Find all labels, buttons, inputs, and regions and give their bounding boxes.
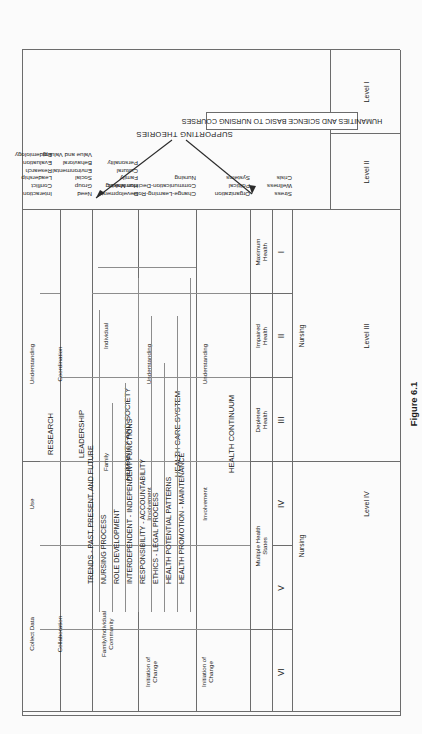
level-label-2: Level II [364, 161, 372, 184]
frame-top-border [22, 50, 23, 716]
research-process-understanding: Understanding [29, 344, 36, 384]
theory-item: Epidemiology [15, 152, 52, 160]
thread-rule-2 [177, 316, 178, 612]
level-bottom-sep-1 [292, 461, 400, 462]
continuum-cell-impaired-health-text: Impaired Health [254, 324, 269, 348]
thread-rule-4 [151, 316, 152, 612]
research-process-collect-data: Collect Data [29, 617, 36, 651]
course-numeral-2: II [278, 334, 287, 339]
continuum-process-initiation: Initiation of Change [200, 657, 215, 687]
continuum-cell-depleted-health-text: Depleted Health [254, 408, 269, 433]
theory-group-interaction: InteractionConflictLeadershipResearchEva… [15, 152, 52, 199]
theory-item: Political [215, 183, 250, 191]
leadership-tick-4 [60, 629, 92, 630]
thread-label-4: RESPONSIBILITY - ACCOUNTABILITY [140, 459, 148, 584]
theory-item: Humanistic [102, 183, 138, 191]
research-tick-1 [40, 293, 60, 294]
continuum-cell-sep-1 [250, 293, 272, 294]
thread-rule-8 [99, 310, 100, 612]
research-process-use: Use [29, 498, 36, 509]
continuum-cell-multiple-health-states: Multiple Health States [254, 526, 269, 567]
continuum-process-understanding: Understanding [202, 344, 209, 384]
continuum-tick-3 [196, 461, 250, 462]
strand-title-health-continuum: HEALTH CONTINUUM [228, 395, 236, 473]
course-numeral-4: IV [278, 500, 287, 508]
hcs-tick-5 [138, 629, 196, 630]
theory-item: Stress [267, 190, 292, 198]
continuum-tick-5 [196, 629, 250, 630]
hcs-process-initiation-text: Initiation of Change [144, 657, 159, 687]
theory-group-organization: OrganizationPoliticalSystems [215, 175, 250, 198]
hcs-tick-1 [138, 293, 196, 294]
course-numeral-5: V [278, 585, 287, 590]
nursing-group-label-right: Nursing [298, 325, 305, 348]
theory-item: Conflict [15, 183, 52, 191]
course-numeral-3: III [278, 417, 287, 424]
course-col-sep-3 [272, 461, 292, 462]
theory-item: Cultural [102, 167, 138, 175]
continuum-cell-maximum-health-text: Maximum Health [254, 239, 269, 266]
theory-column-divider [22, 209, 330, 210]
thread-rule-7 [112, 403, 113, 612]
humanities-box-label: HUMANITIES AND SCIENCE BASIC TO NURSING … [182, 117, 382, 125]
thread-rule-3 [164, 363, 165, 612]
theory-group-stress: StressWellnessCrisis [267, 175, 292, 198]
theory-item: Wellness [267, 183, 292, 191]
continuum-cell-sep-3 [250, 461, 272, 462]
hcs-process-initiation: Initiation of Change [144, 657, 159, 687]
course-numeral-1: I [278, 251, 287, 253]
leadership-tick-1 [60, 377, 92, 378]
humanity-tick-1 [92, 293, 138, 294]
humanity-process-family: Family [103, 453, 110, 471]
humanity-process-family-individual-community: Family/Individual Community [100, 611, 115, 657]
humanity-process-family-individual-community-text: Family/Individual Community [100, 611, 115, 657]
course-col-sep-2 [272, 377, 292, 378]
humanity-tick-5 [92, 629, 138, 630]
thread-label-3: ETHICS - LEGAL PROCESS [153, 492, 161, 584]
thread-rule-1 [190, 278, 191, 612]
thread-rule-6 [125, 383, 126, 612]
strand-title-leadership: LEADERSHIP [78, 410, 86, 458]
level-label-1: Level I [364, 82, 372, 103]
frame-left-border [22, 715, 400, 716]
course-col-sep-5 [272, 629, 292, 630]
thread-label-2: HEALTH POTENTIAL PATTERNS [166, 477, 174, 584]
theory-item: Family [102, 175, 138, 183]
frame-bottom-border [400, 50, 401, 716]
thread-label-1: HEALTH PROMOTION - MAINTENANCE [179, 453, 187, 584]
frame-right-border [22, 49, 400, 50]
level-label-4: Level IV [364, 491, 372, 517]
theory-item: Research [15, 167, 52, 175]
course-numeral-6: VI [278, 668, 287, 676]
continuum-cell-sep-4 [250, 629, 272, 630]
leadership-process-coordination: Coordination [57, 346, 64, 381]
continuum-cell-multiple-health-states-text: Multiple Health States [254, 526, 269, 567]
humanity-process-individual: Individual [103, 323, 110, 349]
humanities-box: HUMANITIES AND SCIENCE BASIC TO NURSING … [206, 112, 358, 130]
theory-item: Systems [215, 175, 250, 183]
theory-item: Leadership [15, 175, 52, 183]
theory-item: Interaction [15, 190, 52, 198]
theory-item: Development [102, 190, 138, 198]
theory-group-development: DevelopmentHumanisticFamilyCulturalPerso… [102, 159, 138, 198]
research-tick-2 [40, 461, 60, 462]
figure-caption: Figure 6.1 [408, 382, 419, 426]
frame-left-inner [22, 711, 400, 712]
thread-label-6: ROLE DEVELOPMENT [114, 509, 122, 584]
thread-rule-5 [138, 278, 139, 612]
course-col-sep-4 [272, 545, 292, 546]
thread-rule-1 [98, 267, 196, 268]
thread-label-8: TRENDS - PAST, PRESENT, AND FUTURE [88, 445, 96, 584]
strand-title-research: RESEARCH [47, 413, 55, 455]
figure-page: Figure 6.1 Level I Level II Level III Le… [0, 0, 422, 734]
research-tick-3 [40, 545, 60, 546]
theory-item: Personality [102, 159, 138, 167]
thread-label-7: NURSING PROCESS [101, 515, 109, 584]
continuum-tick-4 [196, 545, 250, 546]
continuum-process-initiation-text: Initiation of Change [200, 657, 215, 687]
level-label-3: Level III [364, 324, 372, 349]
level-band-top-line [330, 50, 331, 210]
course-col-sep-1 [272, 293, 292, 294]
theory-item: Crisis [267, 175, 292, 183]
rotated-figure-canvas: Figure 6.1 Level I Level II Level III Le… [0, 0, 422, 734]
